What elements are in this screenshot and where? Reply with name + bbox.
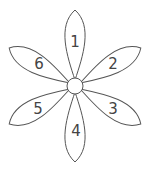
petal-label-6: 6 [34,55,44,73]
flower-diagram: 1 2 3 4 5 6 [0,0,149,172]
petal-label-4: 4 [71,122,81,140]
petal-label-5: 5 [33,100,43,118]
flower-center [67,78,83,94]
petal-label-1: 1 [70,33,80,51]
petal-label-2: 2 [108,55,118,73]
petal-label-3: 3 [108,100,118,118]
petal-1: 1 [65,10,85,80]
